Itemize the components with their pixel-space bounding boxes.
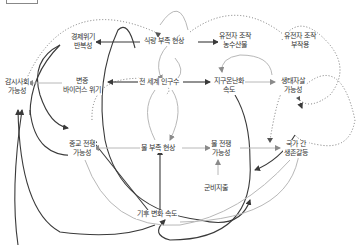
node-surveillance-society: 감시사회 가능성 xyxy=(4,78,30,96)
node-religious-line1: 종교 전쟁 xyxy=(69,140,95,149)
node-eco-line1: 생태자살 xyxy=(281,77,305,86)
node-gmo-crops-line1: 유전자 조작 xyxy=(219,32,251,41)
node-waterwar-line1: 물 전쟁 xyxy=(211,140,231,149)
node-gmo-side-line2: 부작용 xyxy=(284,41,316,50)
node-econ-line2: 반복성 xyxy=(71,42,95,51)
node-nation-line2: 생존갈등 xyxy=(284,149,308,158)
node-world-population: 전 세계 인구수 xyxy=(138,78,180,87)
node-gmo-side-line1: 유전자 조작 xyxy=(284,32,316,41)
node-national-conflict: 국가 간 생존갈등 xyxy=(283,140,309,158)
node-nation-line1: 국가 간 xyxy=(284,140,308,149)
node-gmo-crops-line2: 농수산물 xyxy=(219,41,251,50)
node-virus-crisis: 변종 바이러스 위기 xyxy=(62,77,102,95)
node-food-shortage: 식량 부족 현상 xyxy=(143,37,185,46)
node-surv-line1: 감시사회 xyxy=(5,78,29,87)
node-climate-change-speed: 기후 변화 속도 xyxy=(136,210,178,219)
node-religious-line2: 가능성 xyxy=(69,149,95,158)
node-global-warming: 지구온난화 속도 xyxy=(213,77,245,95)
node-water-war: 물 전쟁 가능성 xyxy=(210,140,232,158)
causal-loop-diagram: 식량 부족 현상 유전자 조작 농수산물 유전자 조작 부작용 경제위기 반복성… xyxy=(0,0,362,250)
node-religious-war: 종교 전쟁 가능성 xyxy=(68,140,96,158)
node-economic-crisis: 경제위기 반복성 xyxy=(70,33,96,51)
node-warming-line1: 지구온난화 xyxy=(214,77,244,86)
node-waterwar-line2: 가능성 xyxy=(211,149,231,158)
node-military-spending: 군비지출 xyxy=(203,184,229,193)
node-eco-line2: 가능성 xyxy=(281,86,305,95)
node-warming-line2: 속도 xyxy=(214,86,244,95)
node-virus-line1: 변종 xyxy=(63,77,101,86)
node-water-shortage: 물 부족 현상 xyxy=(140,144,176,153)
node-gmo-side-effects: 유전자 조작 부작용 xyxy=(283,32,317,50)
node-gmo-crops: 유전자 조작 농수산물 xyxy=(218,32,252,50)
node-econ-line1: 경제위기 xyxy=(71,33,95,42)
node-surv-line2: 가능성 xyxy=(5,87,29,96)
node-eco-suicide: 생태자살 가능성 xyxy=(280,77,306,95)
node-virus-line2: 바이러스 위기 xyxy=(63,86,101,95)
